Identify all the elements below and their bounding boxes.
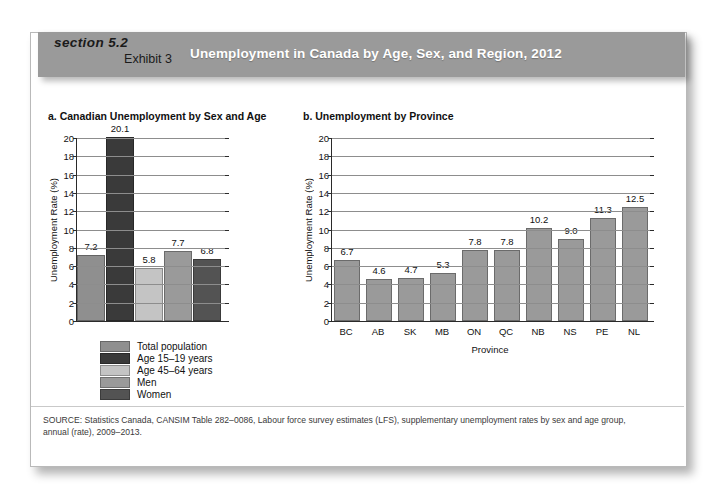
legend-swatch [100, 365, 130, 376]
gridline [332, 266, 650, 267]
x-category-label: NL [621, 326, 647, 337]
bar[interactable]: 9.0 [558, 239, 584, 321]
y-tick-mark [73, 175, 77, 176]
chart-a-container: a. Canadian Unemployment by Sex and Age … [48, 110, 266, 322]
y-tick-mark-right [225, 193, 229, 194]
legend-label: Age 45–64 years [137, 365, 213, 376]
bar[interactable]: 6.7 [334, 260, 360, 321]
bar-fill [77, 255, 105, 321]
chart-a-plot-row: Unemployment Rate (%) 20181614121086420 … [48, 138, 266, 322]
header-left-block: section 5.2 Exhibit 3 [54, 35, 174, 66]
x-category-label: SK [397, 326, 423, 337]
y-tick-mark-right [650, 248, 654, 249]
y-tick-mark [328, 321, 332, 322]
bar-fill [430, 273, 456, 321]
y-tick-mark [328, 303, 332, 304]
bar[interactable]: 11.3 [590, 218, 616, 321]
y-tick-mark [73, 321, 77, 322]
bar[interactable]: 6.8 [193, 259, 221, 321]
bar[interactable]: 5.8 [135, 268, 163, 321]
y-tick-mark [328, 230, 332, 231]
x-category-label: NB [525, 326, 551, 337]
y-tick-mark [328, 284, 332, 285]
y-tick-mark-right [650, 211, 654, 212]
y-tick-mark [328, 211, 332, 212]
bar[interactable]: 7.7 [164, 251, 192, 321]
chart-b-plot-row: Unemployment Rate (%) 20181614121086420 … [303, 138, 650, 355]
y-tick-mark-right [225, 138, 229, 139]
y-tick-mark-right [650, 321, 654, 322]
legend-item: Age 45–64 years [100, 365, 213, 376]
chart-b-x-categories: BCABSKMBONQCNBNSPENL [331, 326, 649, 337]
source-note: SOURCE: Statistics Canada, CANSIM Table … [43, 414, 643, 439]
legend-label: Total population [137, 341, 207, 352]
y-tick-mark-right [225, 211, 229, 212]
bar[interactable]: 10.2 [526, 228, 552, 321]
bar-fill [135, 268, 163, 321]
legend-item: Women [100, 389, 213, 400]
y-tick-mark-right [225, 266, 229, 267]
section-label: section 5.2 [54, 35, 174, 50]
y-tick-mark-right [650, 230, 654, 231]
y-tick-mark [73, 211, 77, 212]
legend-swatch [100, 389, 130, 400]
chart-b-container: b. Unemployment by Province Unemployment… [303, 110, 650, 355]
gridline [332, 230, 650, 231]
gridline [332, 175, 650, 176]
bar[interactable]: 12.5 [622, 207, 648, 321]
chart-a-legend: Total populationAge 15–19 yearsAge 45–64… [100, 341, 213, 401]
exhibit-header-band: section 5.2 Exhibit 3 Unemployment in Ca… [38, 32, 685, 77]
x-category-label: ON [461, 326, 487, 337]
y-tick-mark-right [225, 303, 229, 304]
gridline [77, 211, 225, 212]
legend-label: Men [137, 377, 156, 388]
gridline [332, 303, 650, 304]
gridline [77, 156, 225, 157]
gridline [77, 248, 225, 249]
bar-fill [164, 251, 192, 321]
y-tick-mark-right [225, 156, 229, 157]
legend-swatch [100, 341, 130, 352]
y-tick-mark-right [650, 138, 654, 139]
x-category-label: PE [589, 326, 615, 337]
bar-fill [526, 228, 552, 321]
y-tick-mark-right [225, 284, 229, 285]
bar[interactable]: 7.2 [77, 255, 105, 321]
y-tick-mark-right [650, 284, 654, 285]
bar-fill [334, 260, 360, 321]
gridline [77, 175, 225, 176]
y-tick-mark [73, 266, 77, 267]
legend-label: Age 15–19 years [137, 353, 213, 364]
y-tick-mark [73, 303, 77, 304]
bar-value-label: 6.8 [200, 245, 213, 256]
bar-value-label: 7.7 [171, 237, 184, 248]
chart-a-y-axis-label: Unemployment Rate (%) [48, 138, 59, 321]
bar-fill [622, 207, 648, 321]
legend-label: Women [137, 389, 171, 400]
gridline [77, 230, 225, 231]
y-tick-mark-right [225, 230, 229, 231]
legend-swatch [100, 353, 130, 364]
y-tick-mark-right [650, 266, 654, 267]
x-category-label: BC [333, 326, 359, 337]
source-divider [31, 406, 684, 407]
chart-b-title: b. Unemployment by Province [303, 110, 650, 122]
bar[interactable]: 5.3 [430, 273, 456, 321]
chart-b-y-axis-label: Unemployment Rate (%) [303, 138, 314, 321]
gridline [332, 284, 650, 285]
bar-value-label: 7.8 [468, 236, 481, 247]
bar-fill [558, 239, 584, 321]
bar-value-label: 12.5 [626, 193, 645, 204]
gridline [77, 303, 225, 304]
gridline [77, 266, 225, 267]
y-tick-mark [73, 248, 77, 249]
legend-item: Men [100, 377, 213, 388]
bar-value-label: 5.8 [142, 254, 155, 265]
chart-a-title: a. Canadian Unemployment by Sex and Age [48, 110, 266, 122]
x-category-label: QC [493, 326, 519, 337]
bar-fill [590, 218, 616, 321]
y-tick-mark [73, 193, 77, 194]
y-tick-mark-right [225, 175, 229, 176]
gridline [332, 156, 650, 157]
bar-fill [193, 259, 221, 321]
